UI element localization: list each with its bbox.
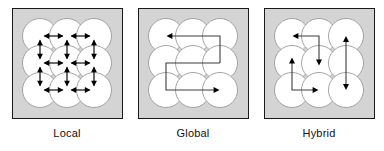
- panel-global-diagram: [138, 8, 249, 119]
- comparison-figure: Local: [0, 0, 384, 151]
- panel-label-local: Local: [53, 126, 80, 140]
- panel-global: Global: [137, 8, 249, 140]
- panel-hybrid: Hybrid: [263, 8, 375, 140]
- node-grid-local: [22, 19, 111, 108]
- panel-local-diagram: [12, 8, 123, 119]
- panel-label-hybrid: Hybrid: [303, 126, 336, 140]
- panel-hybrid-diagram: [264, 8, 375, 119]
- panel-label-global: Global: [177, 126, 210, 140]
- panel-local: Local: [11, 8, 123, 140]
- panel-group: Local: [0, 0, 384, 151]
